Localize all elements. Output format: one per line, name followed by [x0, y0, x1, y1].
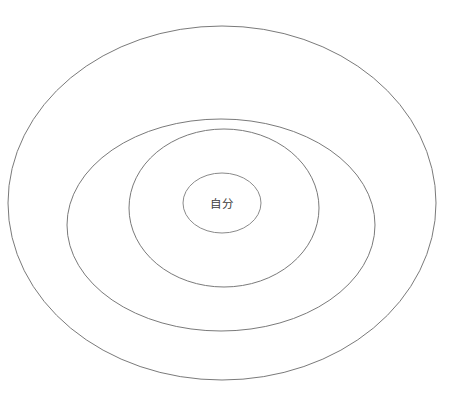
- diagram-canvas: 自分: [0, 0, 462, 400]
- concentric-ellipses-diagram: 自分: [0, 0, 462, 400]
- center-label-self: 自分: [210, 197, 234, 211]
- ring-second[interactable]: [67, 119, 375, 331]
